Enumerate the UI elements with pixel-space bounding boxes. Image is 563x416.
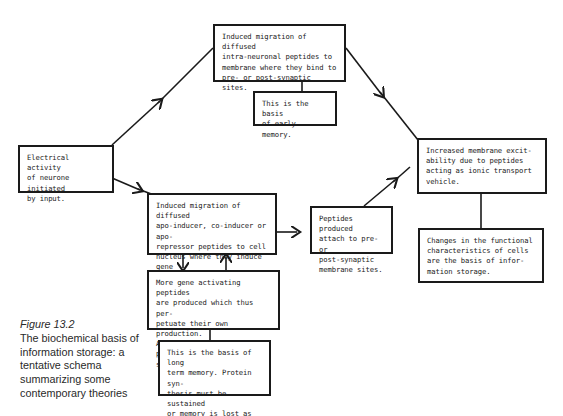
box-peptides-attach: Peptides produced attach to pre- or post… bbox=[310, 206, 393, 254]
line-top-to-excitability bbox=[380, 92, 418, 140]
arrow-electrical-to-top bbox=[112, 101, 160, 145]
figure-label: Figure 13.2 bbox=[20, 318, 150, 332]
arrow-peptides-to-excitability bbox=[364, 180, 395, 206]
box-long-term-memory: This is the basis of long term memory. P… bbox=[158, 340, 271, 396]
arrow-top-to-excitability bbox=[346, 48, 382, 95]
arrow-electrical-to-apo bbox=[112, 178, 140, 190]
box-increased-excitability: Increased membrane excit- ability due to… bbox=[417, 138, 547, 194]
figure-caption: Figure 13.2 The biochemical basis of inf… bbox=[20, 318, 150, 401]
box-electrical-activity: Electrical activity of neurone initiated… bbox=[18, 145, 114, 193]
box-changes-functional: Changes in the functional characteristic… bbox=[418, 228, 544, 283]
line-peptides-to-excitability bbox=[393, 167, 410, 182]
box-apo-inducer-migration: Induced migration of diffused apo-induce… bbox=[147, 193, 277, 255]
line-electrical-to-top bbox=[158, 48, 213, 103]
box-induced-migration-intraneuronal: Induced migration of diffused intra-neur… bbox=[213, 24, 346, 82]
caption-text: The biochemical basis of information sto… bbox=[20, 332, 139, 399]
box-more-gene-peptides: More gene activating peptides are produc… bbox=[147, 270, 280, 330]
box-early-memory: This is the basis of early memory. bbox=[253, 91, 337, 126]
